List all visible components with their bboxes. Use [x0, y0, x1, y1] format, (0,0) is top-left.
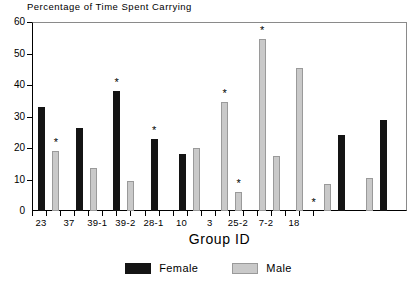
x-tick-label-3: 3 [207, 217, 213, 228]
x-tick-mark [88, 211, 89, 216]
x-tick-mark [60, 211, 61, 216]
x-tick-mark [102, 211, 103, 216]
x-tick-mark [46, 211, 47, 216]
chart-legend: Female Male [0, 262, 417, 274]
significance-star: * [311, 199, 315, 206]
y-tick-label: 30 [14, 112, 25, 122]
x-tick-mark [145, 211, 146, 216]
x-tick-mark [187, 211, 188, 216]
bar-10-male [221, 102, 228, 211]
bar-10-male [235, 192, 242, 211]
x-tick-mark [299, 211, 300, 216]
x-tick-label-37: 37 [64, 217, 75, 228]
x-tick-label-28-1: 28-1 [143, 217, 163, 228]
y-tick-label: 0 [19, 206, 25, 216]
bar-23-male [52, 151, 59, 211]
x-tick-label-7-2: 7-2 [259, 217, 274, 228]
bar-37-female [76, 128, 83, 211]
bar-18-female [380, 120, 387, 211]
x-tick-mark [159, 211, 160, 216]
x-axis-title: Group ID [32, 231, 407, 247]
significance-star: * [236, 180, 240, 187]
x-tick-mark [313, 211, 314, 216]
y-tick-label: 60 [14, 17, 25, 27]
legend-label-female: Female [159, 262, 198, 274]
x-tick-mark [215, 211, 216, 216]
x-tick-mark [130, 211, 131, 216]
x-tick-label-39-2: 39-2 [115, 217, 135, 228]
y-tick-label: 20 [14, 143, 25, 153]
significance-star: * [260, 27, 264, 34]
significance-star: * [152, 127, 156, 134]
x-tick-mark [32, 211, 33, 216]
x-tick-mark [257, 211, 258, 216]
x-tick-label-25-2: 25-2 [228, 217, 248, 228]
bar-28-1-male [193, 148, 200, 211]
legend-entry-female: Female [125, 262, 198, 274]
x-tick-label-23: 23 [35, 217, 46, 228]
x-tick-label-39-1: 39-1 [87, 217, 107, 228]
x-tick-mark [74, 211, 75, 216]
bar-39-1-male [127, 181, 134, 211]
bars-layer: ******* [32, 22, 407, 211]
bar-18-male [366, 178, 373, 211]
female-swatch-icon [125, 263, 151, 274]
chart-title: Percentage of Time Spent Carrying [27, 1, 192, 12]
x-tick-mark [173, 211, 174, 216]
bar-37-male [90, 168, 97, 211]
legend-entry-male: Male [232, 262, 291, 274]
x-tick-label-10: 10 [176, 217, 187, 228]
x-tick-mark [271, 211, 272, 216]
bar-39-1-female [113, 91, 120, 211]
bar-3-male [273, 156, 280, 211]
bar-25-2-male [296, 68, 303, 211]
significance-star: * [115, 79, 119, 86]
y-tick-label: 10 [14, 175, 25, 185]
legend-label-male: Male [266, 262, 291, 274]
significance-star: * [222, 90, 226, 97]
carrying-time-bar-chart: Percentage of Time Spent Carrying 010203… [0, 0, 417, 286]
significance-star: * [54, 139, 58, 146]
bar-39-2-female [151, 139, 158, 211]
bar-3-male [259, 39, 266, 211]
bar-28-1-female [179, 154, 186, 211]
y-tick-label: 50 [14, 49, 25, 59]
bar-23-female [38, 107, 45, 211]
x-tick-mark [229, 211, 230, 216]
x-tick-label-18: 18 [289, 217, 300, 228]
x-tick-mark [285, 211, 286, 216]
y-axis: 0102030405060 [0, 22, 32, 211]
x-tick-mark [116, 211, 117, 216]
x-tick-mark [201, 211, 202, 216]
bar-7-2-female [338, 135, 345, 211]
male-swatch-icon [232, 263, 258, 274]
y-tick-label: 40 [14, 80, 25, 90]
bar-7-2-male [324, 184, 331, 211]
x-tick-mark [243, 211, 244, 216]
x-axis-tick-labels: 233739-139-228-110325-27-218 [32, 217, 407, 231]
